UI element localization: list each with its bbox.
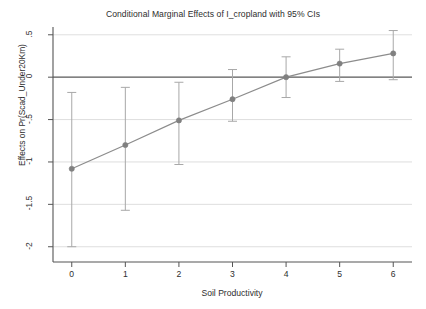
data-point-marker: [283, 75, 288, 80]
data-point-marker: [69, 166, 74, 171]
y-axis-tick-label: .5: [24, 19, 34, 49]
plot-area: [0, 0, 426, 309]
x-axis-tick-label: 0: [62, 269, 82, 279]
error-bar: [174, 82, 183, 164]
data-point-marker: [176, 118, 181, 123]
y-axis-tick-label: -1.5: [24, 188, 34, 218]
data-point-marker: [391, 51, 396, 56]
x-axis-tick-label: 3: [223, 269, 243, 279]
x-axis-tick-label: 4: [276, 269, 296, 279]
x-axis-tick-label: 5: [330, 269, 350, 279]
y-axis-tick-label: -.5: [24, 104, 34, 134]
y-axis-tick-label: -1: [24, 146, 34, 176]
error-bar: [121, 87, 130, 210]
y-axis-tick-label: 0: [24, 61, 34, 91]
y-axis-tick-label: -2: [24, 231, 34, 261]
data-point-marker: [337, 61, 342, 66]
x-axis-tick-label: 2: [169, 269, 189, 279]
data-point-marker: [123, 142, 128, 147]
data-point-marker: [230, 97, 235, 102]
x-axis-tick-label: 6: [383, 269, 403, 279]
marginal-effects-figure: Conditional Marginal Effects of I_cropla…: [0, 0, 426, 309]
x-axis-tick-label: 1: [115, 269, 135, 279]
